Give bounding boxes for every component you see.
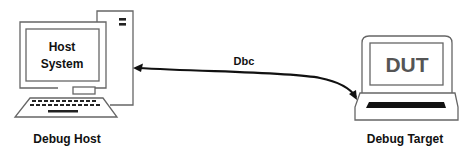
connection-line — [137, 68, 356, 97]
monitor-screen — [26, 29, 99, 81]
spacebar — [48, 110, 78, 113]
laptop-keyboard-bar — [366, 102, 446, 108]
dbc-connection-arrow — [133, 64, 357, 101]
debug-host-computer-icon: Host System — [15, 11, 133, 117]
monitor-neck — [73, 87, 95, 94]
target-screen-text: DUT — [385, 53, 428, 76]
tower-button-top — [119, 18, 126, 21]
debug-host-caption: Debug Host — [33, 132, 100, 146]
connection-label: Dbc — [234, 55, 255, 67]
tower-button-bottom — [119, 23, 126, 26]
debug-target-caption: Debug Target — [367, 132, 443, 146]
arrowhead-left-icon — [133, 64, 143, 73]
debug-connection-diagram: Host System Debug Host Dbc DUT Debug Tar… — [0, 0, 472, 154]
debug-target-laptop-icon: DUT — [355, 36, 458, 120]
host-screen-line1: Host — [49, 40, 76, 54]
host-screen-line2: System — [41, 57, 84, 71]
